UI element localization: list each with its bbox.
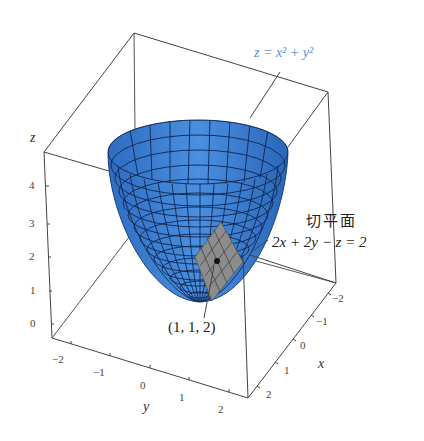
surface-leader-line — [250, 72, 280, 118]
z-tick-0: 0 — [30, 318, 36, 329]
y-tick-neg2: −2 — [52, 354, 64, 365]
x-tick-0: 0 — [300, 340, 306, 351]
z-axis-label: z — [30, 131, 35, 145]
tangent-point — [214, 258, 220, 264]
tangent-plane-equation: 2x + 2y − z = 2 — [272, 235, 367, 250]
z-tick-2: 2 — [29, 251, 35, 262]
y-axis-label: y — [143, 400, 149, 414]
y-tick-neg1: −1 — [93, 367, 105, 378]
tangent-plane-title: 切平面 — [306, 214, 357, 229]
z-ticks — [46, 186, 54, 324]
z-tick-1: 1 — [30, 285, 36, 296]
z-tick-4: 4 — [29, 180, 35, 191]
y-tick-0: 0 — [140, 380, 146, 391]
x-axis-label: x — [318, 357, 324, 371]
plot-3d — [0, 0, 424, 441]
point-label: (1, 1, 2) — [168, 320, 216, 335]
surface-equation-label: z = x² + y² — [254, 46, 313, 60]
z-tick-3: 3 — [29, 218, 35, 229]
y-tick-1: 1 — [179, 392, 185, 403]
x-ticks — [257, 293, 331, 388]
y-tick-2: 2 — [218, 404, 224, 415]
paraboloid-surface — [108, 120, 288, 302]
x-tick-2: 2 — [266, 389, 272, 400]
x-tick-neg1: −1 — [316, 316, 328, 327]
x-tick-neg2: −2 — [332, 293, 344, 304]
x-tick-1: 1 — [284, 365, 290, 376]
